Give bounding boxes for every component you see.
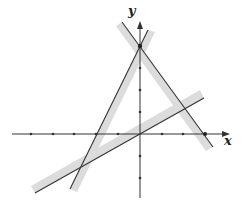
y-axis-arrow-icon (137, 21, 143, 29)
axes (12, 21, 230, 198)
x-axis-label: x (224, 133, 232, 148)
y-axis-label: y (128, 3, 136, 18)
line-1 (70, 30, 148, 189)
boundary-lines (35, 22, 213, 193)
inequality-graph (0, 0, 249, 207)
point-x-intercept (203, 132, 207, 136)
line-3 (35, 98, 204, 193)
point-y-intercept (138, 44, 142, 48)
shading (31, 22, 213, 193)
